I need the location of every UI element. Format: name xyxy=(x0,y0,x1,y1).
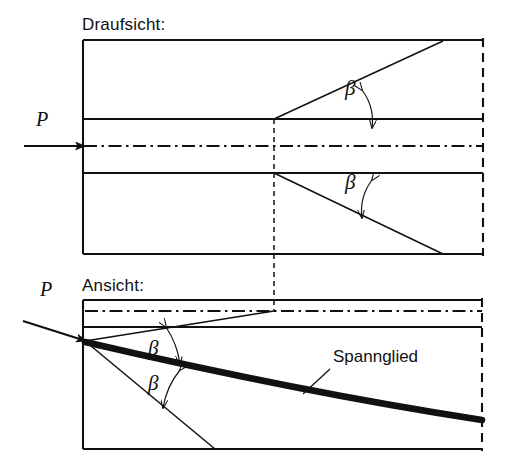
figure-canvas: Draufsicht: P β β Ansicht: P β β Spanngl… xyxy=(0,0,511,473)
elevation-splay-line-upper xyxy=(85,311,274,341)
plan-view-group xyxy=(24,38,483,300)
elevation-load-arrow xyxy=(23,321,86,341)
plan-angle-arc-upper xyxy=(362,90,372,128)
plan-splay-line-upper xyxy=(274,41,443,119)
elevation-angle-label-lower: β xyxy=(148,371,158,396)
elevation-load-label: P xyxy=(40,278,52,301)
elevation-angle-label-upper: β xyxy=(148,336,158,361)
plan-angle-arc-lower xyxy=(362,180,372,218)
plan-view-label: Draufsicht: xyxy=(82,15,165,35)
tendon-label: Spannglied xyxy=(333,347,418,367)
plan-load-label: P xyxy=(36,108,48,131)
plan-angle-label-upper: β xyxy=(345,76,355,101)
plan-splay-line-lower xyxy=(274,173,443,254)
elevation-view-group xyxy=(23,298,482,451)
plan-angle-label-lower: β xyxy=(345,170,355,195)
technical-drawing xyxy=(0,0,511,473)
tendon-curve xyxy=(85,342,482,420)
elevation-angle-arc-lower xyxy=(163,370,180,408)
elevation-view-label: Ansicht: xyxy=(82,276,144,296)
